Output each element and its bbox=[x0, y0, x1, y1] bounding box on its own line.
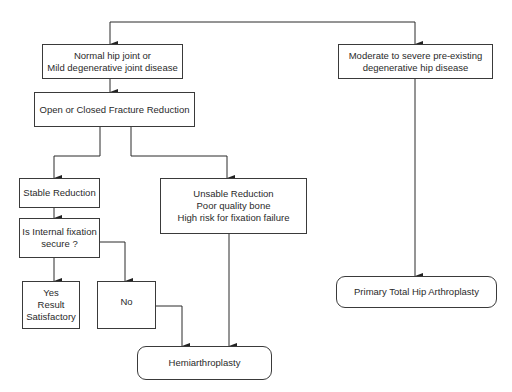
node-normal-hip-joint: Normal hip joint or Mild degenerative jo… bbox=[42, 44, 183, 79]
node-moderate-severe-disease: Moderate to severe pre-existing degenera… bbox=[338, 44, 493, 79]
node-unstable-reduction: Unsable Reduction Poor quality bone High… bbox=[160, 178, 307, 234]
node-stable-reduction: Stable Reduction bbox=[19, 178, 100, 208]
node-fracture-reduction: Open or Closed Fracture Reduction bbox=[34, 92, 195, 127]
node-primary-total-hip-arthroplasty: Primary Total Hip Arthroplasty bbox=[336, 276, 497, 308]
node-hemiarthroplasty: Hemiarthroplasty bbox=[137, 346, 272, 380]
node-fixation-secure-question: Is Internal fixation secure ? bbox=[19, 218, 100, 258]
node-yes-result-satisfactory: Yes Result Satisfactory bbox=[22, 281, 80, 329]
node-no: No bbox=[97, 281, 156, 329]
